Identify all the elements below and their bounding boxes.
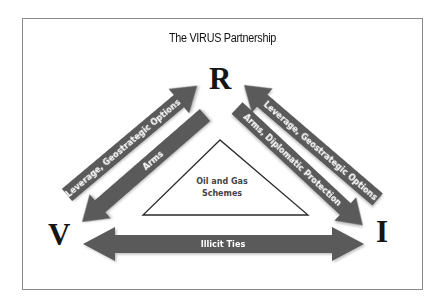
- diagram-graphics: Oil and Gas Schemes Leverage, Geostrateg…: [0, 0, 445, 304]
- triangle-label-line2: Schemes: [202, 189, 242, 198]
- arrow-label: Illicit Ties: [201, 239, 246, 249]
- triangle-label-line1: Oil and Gas: [196, 177, 248, 186]
- arrow-v-i-illicit-ties: Illicit Ties: [83, 227, 364, 261]
